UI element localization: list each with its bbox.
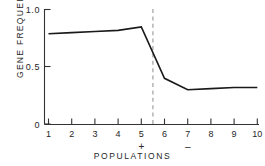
figure-container: 1.0 0.5 0 1 2 3 4 5 6 7 8 9 10 [0,0,265,166]
x-tick-label-9: 9 [232,129,237,139]
y-tick-label-bottom: 0 [34,120,40,130]
x-tick-label-10: 10 [252,129,262,139]
x-tick-label-5: 5 [139,129,144,139]
x-tick-label-3: 3 [92,129,97,139]
y-tick-label-top: 1.0 [26,5,40,15]
x-tick-label-2: 2 [69,129,74,139]
line-chart: 1.0 0.5 0 1 2 3 4 5 6 7 8 9 10 [0,0,265,166]
y-axis-title: GENE FREQUENCY [15,0,25,79]
x-tick-label-1: 1 [46,129,51,139]
y-ticks [45,10,51,125]
axes [45,9,260,125]
x-tick-label-6: 6 [162,129,167,139]
data-line-gene-frequency [49,27,258,90]
x-tick-label-4: 4 [116,129,121,139]
x-tick-label-7: 7 [185,129,190,139]
x-tick-label-8: 8 [208,129,213,139]
y-tick-label-mid: 0.5 [26,62,40,72]
x-tick-labels: 1 2 3 4 5 6 7 8 9 10 [46,129,262,139]
x-axis-title: POPULATIONS [0,151,265,161]
